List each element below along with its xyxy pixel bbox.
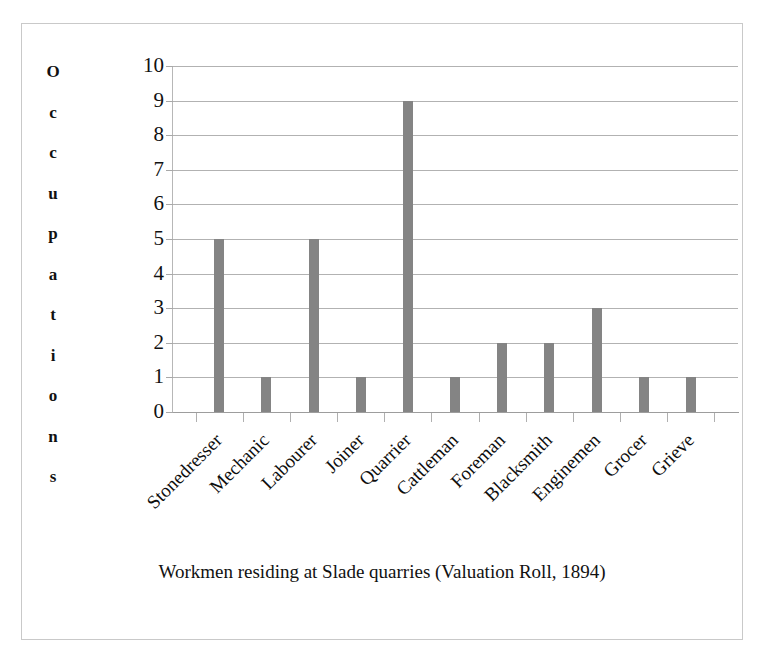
y-axis-tick [166, 308, 173, 309]
x-axis-tick-labels: StonedresserMechanicLabourerJoinerQuarri… [0, 0, 774, 655]
y-axis-tick [166, 135, 173, 136]
y-axis-tick [166, 204, 173, 205]
y-axis-tick [166, 66, 173, 67]
y-axis-tick [166, 274, 173, 275]
y-axis-tick [166, 170, 173, 171]
y-axis-tick [166, 412, 173, 413]
y-axis-tick [166, 343, 173, 344]
y-axis-tick [166, 239, 173, 240]
figure-caption: Workmen residing at Slade quarries (Valu… [21, 561, 743, 583]
y-axis-tick [166, 377, 173, 378]
y-axis-tick [166, 101, 173, 102]
